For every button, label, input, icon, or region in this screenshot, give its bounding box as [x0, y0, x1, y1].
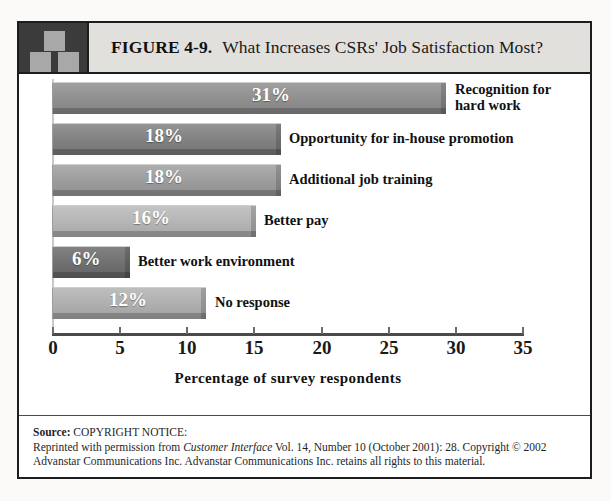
bar-category-label: No response: [215, 294, 290, 310]
footnote-divider: [19, 415, 590, 416]
x-axis-line: [52, 333, 524, 336]
footnote-line-2: Reprinted with permission from Customer …: [33, 440, 578, 455]
bar-category-label-line2: hard work: [455, 97, 521, 113]
bar-chart: 31% Recognition for hard work 18% Opport…: [19, 74, 590, 404]
bar-value-label: 31%: [252, 84, 290, 106]
x-axis-tick-label: 35: [514, 337, 533, 359]
bar-value-label: 12%: [109, 289, 147, 311]
bar-shade-bottom: [53, 190, 281, 196]
x-axis-tick-label: 30: [447, 337, 466, 359]
bar-value-label: 18%: [145, 125, 183, 147]
bar-shade-bottom: [53, 231, 256, 237]
x-axis-title: Percentage of survey respondents: [52, 370, 524, 387]
x-axis-tick: [522, 327, 524, 334]
bar-category-label-line1: Recognition for: [455, 81, 551, 97]
bar-category-label: Opportunity for in-house promotion: [289, 130, 514, 146]
footnote-line-3: Advanstar Communications Inc. Advanstar …: [33, 454, 578, 469]
figure-title-bar: FIGURE 4-9. What Increases CSRs' Job Sat…: [87, 21, 592, 74]
figure-page: FIGURE 4-9. What Increases CSRs' Job Sat…: [0, 0, 611, 501]
bar-value-label: 16%: [132, 207, 170, 229]
x-axis-tick-label: 20: [313, 337, 332, 359]
x-axis-tick: [455, 327, 457, 334]
logo-square-bottom-right: [58, 52, 79, 72]
footnote-issue-text: Vol. 14, Number 10 (October 2001): 28. C…: [272, 441, 546, 453]
source-footnote: Source: COPYRIGHT NOTICE: Reprinted with…: [33, 425, 578, 469]
x-axis-tick-label: 0: [48, 337, 58, 359]
footnote-line-1: Source: COPYRIGHT NOTICE:: [33, 425, 578, 440]
footnote-source-label: Source:: [33, 426, 70, 438]
footnote-reprint-text: Reprinted with permission from: [33, 441, 183, 453]
bar-category-label: Additional job training: [289, 171, 432, 187]
x-axis-tick: [186, 327, 188, 334]
x-axis-tick: [321, 327, 323, 334]
x-axis-tick: [253, 327, 255, 334]
x-axis-tick-label: 10: [178, 337, 197, 359]
bar-shade-bottom: [53, 272, 130, 278]
x-axis-tick: [52, 327, 54, 334]
page-title: What Increases CSRs' Job Satisfaction Mo…: [222, 37, 543, 58]
bar-shade-bottom: [53, 313, 206, 319]
logo-square-bottom-left: [30, 52, 51, 72]
bar-value-label: 6%: [72, 248, 101, 270]
x-axis-tick-label: 25: [380, 337, 399, 359]
bar-category-label: Recognition for hard work: [455, 81, 551, 113]
three-squares-logo-icon: [17, 21, 87, 74]
bar-category-label: Better work environment: [138, 253, 295, 269]
bar-shade-bottom: [53, 108, 446, 114]
x-axis-tick-label: 5: [115, 337, 125, 359]
bar-value-label: 18%: [145, 166, 183, 188]
x-axis-tick-label: 15: [245, 337, 264, 359]
bar-category-label: Better pay: [264, 212, 329, 228]
bar-recognition-for-hard-work[interactable]: [52, 82, 446, 114]
figure-header: FIGURE 4-9. What Increases CSRs' Job Sat…: [17, 21, 592, 74]
logo-square-top: [44, 31, 65, 51]
x-axis-tick: [119, 327, 121, 334]
footnote-copyright-notice: COPYRIGHT NOTICE:: [70, 426, 187, 438]
bar-shade-bottom: [53, 149, 281, 155]
x-axis-tick: [388, 327, 390, 334]
footnote-publication-title: Customer Interface: [183, 441, 272, 453]
figure-number: FIGURE 4-9.: [111, 37, 212, 58]
